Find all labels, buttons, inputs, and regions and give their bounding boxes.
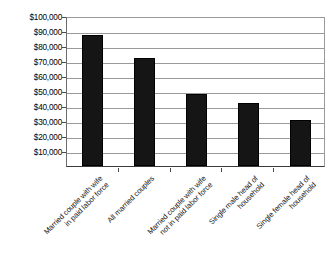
bar — [238, 103, 259, 166]
y-axis-tick-label: $30,000 — [16, 118, 62, 127]
x-axis-tick-label: Married couple with wifein paid labor fo… — [29, 174, 111, 256]
x-axis-tick-mark — [221, 168, 222, 172]
y-axis-tick-label: $70,000 — [16, 58, 62, 67]
bar — [290, 120, 311, 166]
y-axis-tick-mark — [62, 77, 66, 78]
y-axis-tick-labels: $100,000$90,000$80,000$70,000$60,000$50,… — [16, 11, 62, 167]
x-axis-tick-mark — [273, 168, 274, 172]
y-axis-tick-label: $60,000 — [16, 73, 62, 82]
y-axis-tick-mark — [62, 152, 66, 153]
bar — [134, 58, 155, 166]
bar — [186, 94, 207, 166]
plot-area — [66, 17, 325, 167]
bar-chart-figure: Median Annual Income $100,000$90,000$80,… — [0, 0, 335, 267]
bar — [82, 35, 103, 166]
y-axis-tick-label: $100,000 — [16, 13, 62, 22]
y-axis-tick-label: $10,000 — [16, 148, 62, 157]
y-axis-tick-mark — [62, 122, 66, 123]
y-axis-tick-mark — [62, 47, 66, 48]
y-axis-tick-mark — [62, 62, 66, 63]
x-axis-tick-mark — [118, 168, 119, 172]
gridline — [67, 48, 324, 49]
y-axis-tick-mark — [62, 137, 66, 138]
gridline — [67, 33, 324, 34]
y-axis-tick-label: $20,000 — [16, 133, 62, 142]
gridline — [67, 78, 324, 79]
y-axis-tick-mark — [62, 17, 66, 18]
gridline — [67, 63, 324, 64]
y-axis-tick-mark — [62, 107, 66, 108]
y-axis-tick-label: $40,000 — [16, 103, 62, 112]
x-axis-tick-mark — [170, 168, 171, 172]
y-axis-tick-mark — [62, 32, 66, 33]
y-axis-tick-label: $90,000 — [16, 28, 62, 37]
x-axis-tick-labels: Married couple with wifein paid labor fo… — [0, 170, 335, 267]
y-axis-tick-label: $50,000 — [16, 88, 62, 97]
y-axis-tick-label: $80,000 — [16, 43, 62, 52]
y-axis-tick-mark — [62, 92, 66, 93]
